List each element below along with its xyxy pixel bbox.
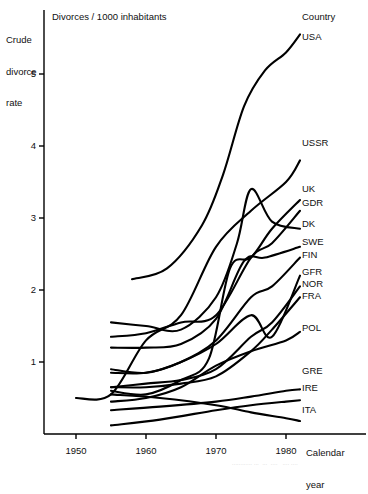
y-tick-label: 3 (14, 212, 36, 223)
series-label-uk: UK (302, 183, 315, 194)
x-axis-caption-line-2: year (306, 480, 345, 491)
x-tick-label: 1960 (132, 445, 160, 456)
series-label-usa: USA (302, 31, 322, 42)
series-label-dk: DK (302, 218, 315, 229)
y-tick-label: 1 (14, 356, 36, 367)
series-line-usa (132, 34, 300, 279)
y-tick-label: 4 (14, 140, 36, 151)
series-label-gfr: GFR (302, 266, 322, 277)
x-tick-label: 1970 (202, 445, 230, 456)
y-tick-label: 5 (14, 68, 36, 79)
series-label-pol: POL (302, 322, 321, 333)
series-line-fin (111, 258, 300, 374)
series-label-ita: ITA (302, 404, 316, 415)
series-label-fra: FRA (302, 290, 321, 301)
y-tick-label: 2 (14, 284, 36, 295)
series-lines (76, 34, 300, 425)
series-line-swe (111, 247, 300, 348)
series-label-fin: FIN (302, 249, 317, 260)
series-label-ire: IRE (302, 382, 318, 393)
x-tick-label: 1950 (62, 445, 90, 456)
series-label-gre: GRE (302, 365, 323, 376)
series-label-swe: SWE (302, 236, 324, 247)
series-label-ussr: USSR (302, 137, 328, 148)
series-line-ussr (76, 160, 300, 399)
x-tick-label: 1980 (272, 445, 300, 456)
series-line-uk (111, 200, 300, 395)
series-line-dk (111, 189, 300, 331)
series-label-gdr: GDR (302, 197, 323, 208)
series-label-nor: NOR (302, 278, 323, 289)
